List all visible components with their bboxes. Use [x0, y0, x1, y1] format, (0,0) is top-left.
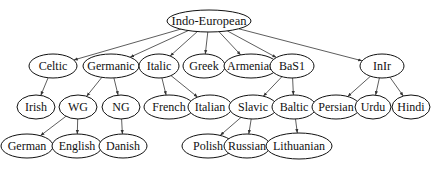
edge-germanic-to-wg	[87, 77, 102, 96]
node-danish: Danish	[99, 134, 147, 158]
edge-celtic-to-irish	[41, 78, 48, 96]
node-germanic: Germanic	[83, 54, 139, 78]
node-label: Russian	[228, 139, 266, 153]
node-wg: WG	[59, 95, 97, 119]
node-german: German	[1, 134, 53, 158]
node-irish: Irish	[17, 95, 55, 119]
edge-germanic-to-ng	[114, 78, 118, 95]
node-slavic: Slavic	[229, 95, 277, 119]
edge-basl-to-slavic	[263, 77, 282, 97]
node-label: Italian	[195, 100, 226, 114]
language-tree-diagram: Indo-EuropeanCelticGermanicItalicGreekAr…	[0, 0, 440, 170]
node-inir: InIr	[360, 54, 404, 78]
edge-baltic-to-lithuanian	[296, 119, 298, 133]
node-celtic: Celtic	[29, 54, 77, 78]
node-label: Baltic	[280, 100, 309, 114]
node-label: NG	[112, 100, 130, 114]
edge-indo-european-to-armenian	[219, 32, 241, 55]
node-russian: Russian	[224, 134, 270, 158]
edge-italic-to-french	[162, 78, 166, 95]
node-persian: Persian	[312, 95, 360, 119]
node-label: Lithuanian	[273, 139, 325, 153]
node-indo-european: Indo-European	[167, 10, 251, 32]
node-label: Indo-European	[172, 14, 248, 28]
edge-inir-to-persian	[348, 76, 371, 96]
node-label: Polish	[193, 139, 223, 153]
edge-basl-to-baltic	[293, 78, 294, 95]
node-label: Irish	[25, 100, 47, 114]
node-label: English	[59, 139, 96, 153]
node-italian: Italian	[188, 95, 232, 119]
edge-slavic-to-polish	[220, 117, 241, 135]
node-greek: Greek	[183, 54, 225, 78]
edge-inir-to-hindi	[390, 77, 403, 96]
node-label: Persian	[318, 100, 353, 114]
node-label: Urdu	[361, 100, 386, 114]
node-label: WG	[68, 100, 88, 114]
node-label: Italic	[147, 59, 172, 73]
node-label: French	[152, 100, 185, 114]
node-lithuanian: Lithuanian	[266, 133, 332, 159]
node-label: BaS1	[279, 59, 305, 73]
node-label: InIr	[373, 59, 391, 73]
node-basl: BaS1	[270, 54, 314, 78]
edge-wg-to-german	[40, 116, 66, 135]
edge-slavic-to-russian	[249, 119, 251, 134]
node-french: French	[144, 95, 194, 119]
node-label: Slavic	[238, 100, 268, 114]
node-hindi: Hindi	[392, 95, 430, 119]
node-label: Hindi	[397, 100, 425, 114]
node-label: Armenian	[227, 59, 275, 73]
node-baltic: Baltic	[272, 95, 316, 119]
node-english: English	[52, 134, 102, 158]
edge-inir-to-urdu	[376, 78, 380, 95]
node-urdu: Urdu	[355, 95, 391, 119]
edges-layer	[40, 29, 403, 136]
node-label: Celtic	[39, 59, 68, 73]
node-italic: Italic	[139, 54, 179, 78]
node-ng: NG	[102, 95, 140, 119]
node-label: German	[8, 139, 47, 153]
edge-italic-to-italian	[171, 76, 198, 98]
nodes-layer: Indo-EuropeanCelticGermanicItalicGreekAr…	[1, 10, 430, 159]
node-label: Greek	[189, 59, 218, 73]
node-label: Danish	[106, 139, 140, 153]
edge-ng-to-danish	[122, 119, 123, 134]
edge-indo-european-to-italic	[170, 32, 197, 56]
node-label: Germanic	[87, 59, 134, 73]
edge-indo-european-to-greek	[205, 32, 208, 54]
edge-indo-european-to-germanic	[130, 31, 188, 58]
